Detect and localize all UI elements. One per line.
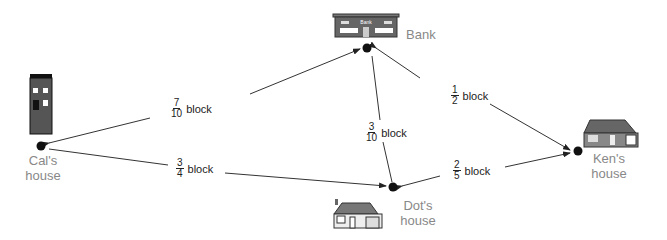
cal-name: Cal's xyxy=(18,153,68,168)
ken-house-label: Ken's house xyxy=(584,151,634,181)
ken-sub: house xyxy=(584,166,634,181)
dot-house-label: Dot's house xyxy=(394,198,442,228)
unit: block xyxy=(381,127,407,139)
dot-sub: house xyxy=(394,213,442,228)
dot-house-icon xyxy=(334,199,382,228)
dot-name: Dot's xyxy=(394,198,442,213)
bank-icon: Bank xyxy=(333,14,399,37)
unit: block xyxy=(465,165,491,177)
denominator: 2 xyxy=(452,96,458,106)
svg-text:Bank: Bank xyxy=(360,19,372,25)
cal-node xyxy=(37,142,46,151)
bank-label: Bank xyxy=(406,27,436,42)
cal-house-label: Cal's house xyxy=(18,153,68,183)
denominator: 5 xyxy=(454,171,460,181)
ken-name: Ken's xyxy=(584,151,634,166)
denominator: 10 xyxy=(171,109,182,119)
cal-sub: house xyxy=(18,168,68,183)
edge-label-cal-bank: 710 block xyxy=(171,98,212,119)
ken-node xyxy=(574,147,583,156)
bank-name: Bank xyxy=(406,27,436,42)
edge-label-dot-ken: 25 block xyxy=(453,160,490,181)
diagram-canvas: Bank xyxy=(0,0,667,240)
unit: block xyxy=(463,90,489,102)
ken-house-icon xyxy=(584,120,638,147)
denominator: 4 xyxy=(177,169,183,179)
denominator: 10 xyxy=(366,133,377,143)
cal-house-icon xyxy=(30,74,52,134)
unit: block xyxy=(186,103,212,115)
unit: block xyxy=(188,163,214,175)
dot-node xyxy=(389,183,398,192)
edge-label-cal-dot: 34 block xyxy=(176,158,213,179)
edge-label-bank-dot: 310 block xyxy=(366,122,407,143)
edge-label-bank-ken: 12 block xyxy=(451,85,488,106)
bank-node xyxy=(363,44,372,53)
